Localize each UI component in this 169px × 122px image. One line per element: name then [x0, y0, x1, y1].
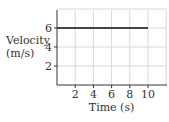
y-axis-label-line2: (m/s) — [6, 47, 34, 60]
x-tick-label: 6 — [108, 88, 115, 101]
x-tick-label: 4 — [90, 88, 97, 101]
y-axis-label-line1: Velocity — [5, 34, 51, 47]
x-tick-label: 2 — [72, 88, 79, 101]
x-tick-label: 8 — [126, 88, 133, 101]
x-axis-label: Time (s) — [89, 101, 135, 114]
y-tick-label: 2 — [45, 60, 52, 73]
x-tick-label: 10 — [141, 88, 155, 101]
velocity-time-chart: 246810246Time (s)Velocity(m/s) — [0, 0, 169, 122]
